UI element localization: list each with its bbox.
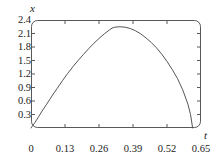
y-tick-label: 1.5 — [3, 56, 31, 67]
plot-svg — [31, 20, 201, 128]
plot-area — [31, 20, 201, 128]
x-tick-label: 0.65 — [181, 144, 216, 155]
y-tick-label: 0.6 — [3, 96, 31, 107]
y-tick-label: 0.9 — [3, 83, 31, 94]
tick-marks — [31, 20, 201, 128]
data-curve — [31, 27, 193, 128]
y-tick-label: 0.3 — [3, 110, 31, 121]
y-tick-label: 2.4 — [3, 15, 31, 26]
y-tick-label: 1.2 — [3, 69, 31, 80]
chart-screenshot: x t 0.30.60.91.21.51.82.12.4 00.130.260.… — [0, 0, 216, 165]
y-axis-label: x — [30, 3, 35, 14]
y-tick-label: 2.1 — [3, 29, 31, 40]
x-axis-label: t — [204, 130, 207, 141]
y-tick-label: 1.8 — [3, 42, 31, 53]
